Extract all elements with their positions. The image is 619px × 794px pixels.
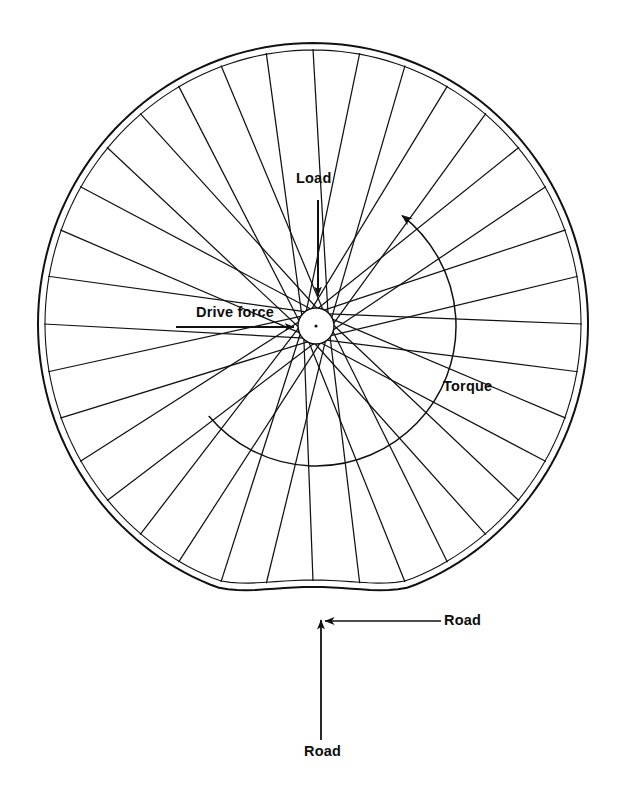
spoke bbox=[326, 317, 565, 418]
hub-center-dot bbox=[314, 324, 317, 327]
spoke bbox=[325, 276, 578, 337]
spoke bbox=[266, 335, 327, 584]
label-load: Load bbox=[296, 171, 331, 186]
spoke bbox=[323, 314, 582, 324]
spoke bbox=[318, 230, 566, 312]
label-road-bottom: Road bbox=[304, 744, 341, 759]
wheel-group bbox=[38, 43, 588, 740]
spoke bbox=[313, 147, 519, 312]
spoke bbox=[311, 339, 486, 535]
spoke bbox=[60, 340, 314, 418]
label-road-side: Road bbox=[444, 613, 481, 628]
spoke bbox=[48, 315, 307, 372]
wheel-diagram-svg bbox=[0, 0, 619, 794]
wheel-force-diagram: Load Drive force Torque Road Road bbox=[0, 0, 619, 794]
spoke bbox=[307, 336, 405, 582]
spoke bbox=[330, 66, 405, 324]
label-torque: Torque bbox=[443, 379, 492, 394]
label-drive-force: Drive force bbox=[196, 305, 274, 320]
spoke bbox=[80, 187, 316, 313]
spoke bbox=[140, 113, 321, 313]
spoke bbox=[304, 333, 313, 581]
spoke bbox=[328, 187, 546, 334]
spoke bbox=[179, 86, 303, 327]
spoke bbox=[329, 321, 519, 501]
spoke bbox=[320, 339, 578, 371]
